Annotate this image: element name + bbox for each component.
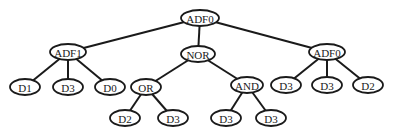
tree-edge bbox=[68, 18, 200, 52]
node-label: OR bbox=[138, 82, 154, 94]
tree-node-d3: D3 bbox=[271, 77, 301, 93]
tree-edges bbox=[25, 18, 368, 118]
node-label: ADF0 bbox=[186, 13, 214, 25]
tree-node-d3: D3 bbox=[53, 79, 83, 95]
node-label: D3 bbox=[166, 113, 180, 125]
node-label: D3 bbox=[264, 113, 278, 125]
node-label: D0 bbox=[103, 82, 117, 94]
tree-node-d3: D3 bbox=[158, 110, 188, 126]
node-label: AND bbox=[235, 80, 259, 92]
tree-node-or: OR bbox=[131, 79, 161, 95]
node-label: ADF0 bbox=[313, 47, 341, 59]
tree-node-d1: D1 bbox=[10, 79, 40, 95]
tree-node-adf0: ADF0 bbox=[309, 44, 345, 60]
node-label: ADF1 bbox=[54, 47, 82, 59]
tree-node-nor: NOR bbox=[181, 46, 215, 62]
tree-node-d0: D0 bbox=[95, 79, 125, 95]
node-label: D2 bbox=[118, 113, 131, 125]
tree-node-d3: D3 bbox=[256, 110, 286, 126]
node-label: D3 bbox=[279, 80, 293, 92]
tree-edge bbox=[200, 18, 327, 52]
tree-node-adf1: ADF1 bbox=[50, 44, 86, 60]
tree-node-d2: D2 bbox=[353, 77, 383, 93]
tree-node-d2: D2 bbox=[110, 110, 140, 126]
node-label: NOR bbox=[186, 49, 210, 61]
program-tree-diagram: ADF0ADF1NORADF0D1D3D0ORANDD2D3D3D3D3D3D2 bbox=[0, 0, 393, 138]
node-label: D3 bbox=[61, 82, 75, 94]
node-label: D3 bbox=[320, 80, 334, 92]
tree-node-d3: D3 bbox=[312, 77, 342, 93]
node-label: D3 bbox=[219, 113, 233, 125]
tree-node-adf0: ADF0 bbox=[181, 10, 219, 26]
node-label: D1 bbox=[18, 82, 31, 94]
node-label: D2 bbox=[361, 80, 374, 92]
tree-node-d3: D3 bbox=[211, 110, 241, 126]
tree-node-and: AND bbox=[231, 77, 263, 93]
